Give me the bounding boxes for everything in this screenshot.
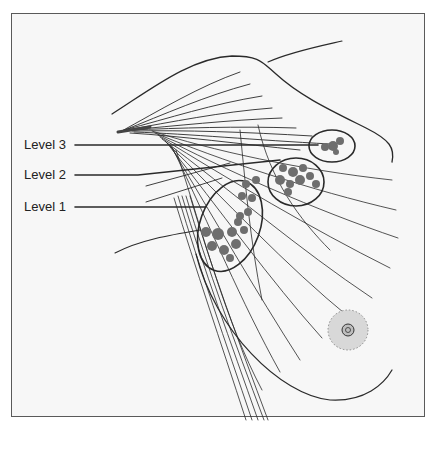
label-level-3: Level 3 xyxy=(24,137,66,153)
axilla-diagram xyxy=(0,0,444,451)
neck-line xyxy=(268,41,342,62)
lymph-nodes xyxy=(201,137,344,262)
shoulder-outline xyxy=(112,56,393,162)
leader-level2 xyxy=(75,160,280,175)
nipple-areola xyxy=(328,310,368,350)
pectoral-muscle-fibers xyxy=(120,72,330,150)
label-level-2: Level 2 xyxy=(24,167,66,183)
label-level-1: Level 1 xyxy=(24,199,66,215)
breast-fibers xyxy=(152,125,398,390)
